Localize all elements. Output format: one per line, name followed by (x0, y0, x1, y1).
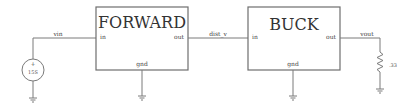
block-forward-title: FORWARD (98, 13, 186, 32)
buck-pin-gnd: gnd (287, 60, 299, 68)
source-plus-sign: + (30, 60, 35, 67)
forward-pin-out: out (174, 33, 184, 40)
ground-icon (376, 89, 384, 93)
ground-icon (29, 98, 37, 102)
ground-icon (289, 96, 297, 100)
voltage-source[interactable]: + 15S (22, 38, 44, 98)
resistor-value: .33 (389, 62, 397, 68)
block-buck-title: BUCK (269, 15, 319, 34)
net-dist-v[interactable]: dist_v (188, 30, 248, 38)
forward-pin-gnd: gnd (136, 60, 148, 68)
ground-icon (138, 96, 146, 100)
net-label-vout: vout (359, 30, 374, 37)
block-forward[interactable]: FORWARD in out gnd (96, 7, 188, 70)
schematic-canvas: + 15S vin FORWARD in out gnd dist_v BUCK… (0, 0, 414, 107)
net-label-dist-v: dist_v (209, 30, 227, 38)
buck-pin-in: in (252, 33, 258, 40)
resistor-icon[interactable]: .33 (377, 52, 397, 89)
block-buck[interactable]: BUCK in out gnd (248, 7, 340, 70)
net-vin[interactable]: vin (33, 30, 96, 38)
source-value: 15S (28, 69, 38, 75)
net-vout[interactable]: vout (340, 30, 380, 52)
net-label-vin: vin (52, 30, 62, 37)
buck-pin-out: out (326, 33, 336, 40)
forward-pin-in: in (100, 33, 106, 40)
